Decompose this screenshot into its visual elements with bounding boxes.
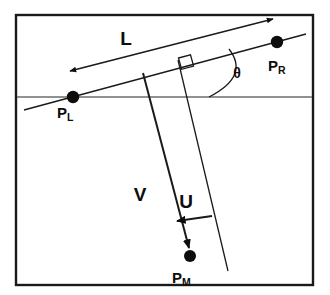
point-label-PR-base: P (268, 57, 278, 74)
point-label-PM-base: P (172, 269, 182, 286)
figure-container: PL PR PM L V U θ (0, 0, 330, 295)
angle-label-theta: θ (233, 65, 241, 81)
point-label-PL-subscript: L (67, 111, 74, 123)
point-dot-PM (184, 250, 196, 262)
point-label-PM-subscript: M (182, 276, 191, 288)
measure-label-L: L (120, 28, 132, 49)
figure-frame (16, 15, 313, 285)
geometry-diagram: PL PR PM L V U θ (0, 0, 330, 295)
point-label-PL-base: P (57, 104, 67, 121)
measure-label-U: U (179, 191, 193, 212)
measure-label-V: V (134, 184, 147, 205)
point-label-PR-subscript: R (278, 64, 286, 76)
point-dot-PL (67, 91, 79, 103)
point-dot-PR (271, 36, 283, 48)
